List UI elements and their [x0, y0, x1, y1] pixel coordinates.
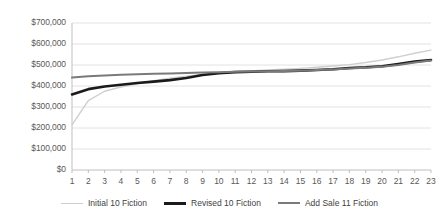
y-tick-label: $300,000: [0, 101, 66, 111]
x-tick-label: 16: [308, 176, 326, 186]
x-tick-label: 23: [422, 176, 439, 186]
y-tick-label: $700,000: [0, 17, 66, 27]
x-tick-label: 14: [275, 176, 293, 186]
y-tick-label: $600,000: [0, 38, 66, 48]
series-line: [72, 50, 431, 125]
x-tick-label: 22: [406, 176, 424, 186]
x-tick-label: 7: [161, 176, 179, 186]
x-tick-label: 5: [128, 176, 146, 186]
x-tick-label: 19: [357, 176, 375, 186]
x-tick-label: 2: [79, 176, 97, 186]
legend-label: Revised 10 Fiction: [191, 198, 261, 208]
y-tick-label: $0: [0, 164, 66, 174]
legend-item[interactable]: Revised 10 Fiction: [164, 198, 261, 208]
x-tick-label: 6: [145, 176, 163, 186]
plot-area: [0, 0, 439, 223]
legend-label: Add Sale 11 Fiction: [305, 198, 378, 208]
legend-label: Initial 10 Fiction: [88, 198, 147, 208]
x-tick-label: 21: [389, 176, 407, 186]
x-tick-label: 15: [291, 176, 309, 186]
x-tick-label: 10: [210, 176, 228, 186]
x-tick-label: 20: [373, 176, 391, 186]
legend-item[interactable]: Add Sale 11 Fiction: [278, 198, 378, 208]
series-line: [72, 61, 431, 78]
x-tick-label: 11: [226, 176, 244, 186]
y-tick-label: $400,000: [0, 80, 66, 90]
y-tick-label: $500,000: [0, 59, 66, 69]
x-tick-label: 18: [340, 176, 358, 186]
x-tick-label: 4: [112, 176, 130, 186]
x-tick-label: 1: [63, 176, 81, 186]
x-tick-label: 13: [259, 176, 277, 186]
legend-swatch-add-sale-11-fiction: [278, 202, 300, 204]
legend-swatch-revised-10-fiction: [164, 202, 186, 205]
x-tick-label: 9: [194, 176, 212, 186]
x-tick-label: 8: [177, 176, 195, 186]
legend-swatch-initial-10-fiction: [61, 203, 83, 204]
y-tick-label: $200,000: [0, 122, 66, 132]
legend-item[interactable]: Initial 10 Fiction: [61, 198, 147, 208]
x-tick-label: 3: [96, 176, 114, 186]
x-tick-label: 12: [243, 176, 261, 186]
y-tick-label: $100,000: [0, 143, 66, 153]
x-tick-label: 17: [324, 176, 342, 186]
line-chart: $0$100,000$200,000$300,000$400,000$500,0…: [0, 0, 439, 223]
chart-legend: Initial 10 Fiction Revised 10 Fiction Ad…: [0, 198, 439, 208]
